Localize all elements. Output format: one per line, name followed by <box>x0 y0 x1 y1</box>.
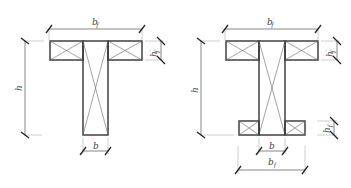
t-dim-top-width: b′f <box>46 16 145 40</box>
label-t-web-width: b <box>93 141 99 151</box>
label-i-web-width: b <box>269 141 275 151</box>
t-dim-height: h <box>14 38 44 138</box>
label-t-height: h <box>14 85 24 91</box>
i-dim-top-width: b′f <box>222 16 321 40</box>
label-i-bottom-flange-height: hf <box>322 123 334 133</box>
label-t-top-width: b′f <box>92 16 100 29</box>
t-flange-right <box>108 41 142 60</box>
i-top-flange-right <box>285 41 318 60</box>
i-dim-bottom-flange-height: hf <box>317 117 338 139</box>
i-top-flange-left <box>226 41 259 60</box>
i-dim-web-width: b <box>256 138 288 155</box>
i-section: b′f h h′f hf <box>190 16 341 174</box>
diagram-canvas: b′f h h′f b <box>0 0 351 188</box>
i-bottom-flange-left <box>239 121 259 135</box>
t-web <box>83 41 108 135</box>
i-dim-height: h <box>190 38 234 138</box>
i-web <box>259 41 285 135</box>
t-section: b′f h h′f b <box>14 16 165 155</box>
t-dim-flange-height: h′f <box>145 37 165 64</box>
label-i-top-width: b′f <box>267 16 275 29</box>
t-dim-web-width: b <box>80 138 111 155</box>
i-dim-top-flange-height: h′f <box>321 37 341 64</box>
t-flange-left <box>50 41 83 60</box>
label-i-height: h <box>190 87 200 93</box>
label-i-bottom-width: bf <box>268 157 278 169</box>
label-t-flange-height: h′f <box>148 49 161 57</box>
label-i-top-flange-height: h′f <box>324 49 337 57</box>
i-bottom-flange-right <box>285 121 305 135</box>
